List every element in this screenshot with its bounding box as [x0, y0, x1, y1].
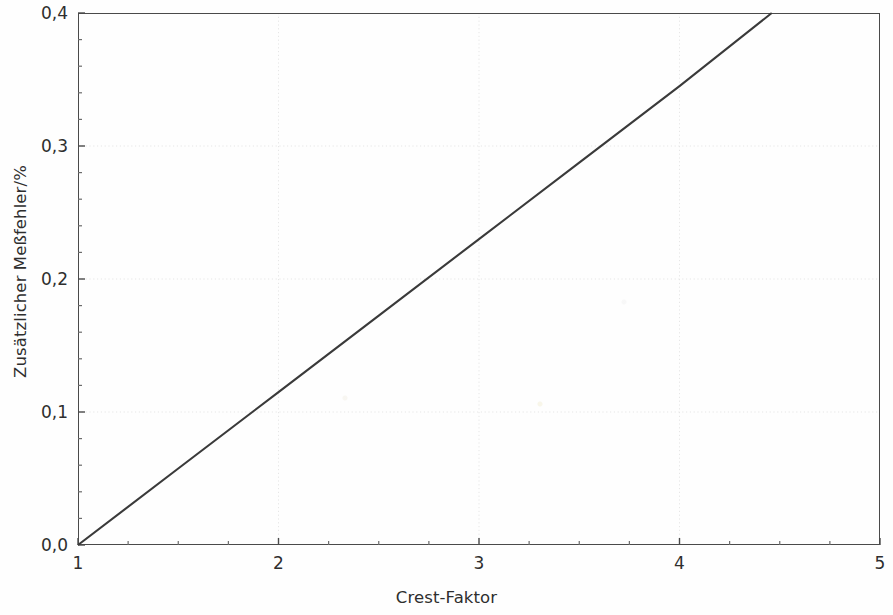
y-tick-label: 0,4	[4, 3, 68, 23]
x-tick-label: 1	[58, 553, 98, 573]
x-axis-title: Crest-Faktor	[0, 588, 893, 607]
plot-frame	[78, 13, 880, 545]
chart-figure: 0,00,10,20,30,4 12345 Zusätzlicher Meßfe…	[0, 0, 893, 615]
x-axis-tick-labels: 12345	[0, 553, 893, 583]
y-axis-title: Zusätzlicher Meßfehler/%	[11, 107, 30, 437]
x-tick-label: 5	[860, 553, 893, 573]
x-tick-label: 4	[660, 553, 700, 573]
x-tick-label: 3	[459, 553, 499, 573]
x-tick-label: 2	[259, 553, 299, 573]
y-tick-label: 0,0	[4, 535, 68, 555]
